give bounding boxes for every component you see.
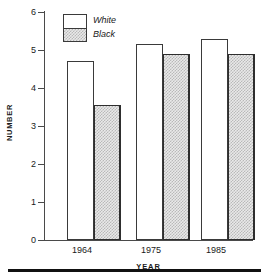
bar-black-1975	[163, 54, 190, 240]
plot-area	[45, 12, 252, 240]
bar-white-1964	[67, 61, 94, 240]
y-tick-0	[38, 240, 45, 241]
y-axis-title: NUMBER	[5, 88, 14, 158]
legend-swatch-white-icon	[63, 14, 87, 28]
legend-swatch-black-icon	[63, 28, 87, 42]
y-tick-2	[38, 164, 45, 165]
y-tick-label-0: 0	[16, 236, 36, 245]
bottom-divider-rule	[8, 269, 261, 272]
y-tick-4	[38, 88, 45, 89]
bar-black-1964	[94, 105, 121, 240]
x-group-label-1975: 1975	[131, 245, 171, 255]
legend-label-black: Black	[93, 29, 115, 40]
y-tick-label-4: 4	[16, 84, 36, 93]
y-tick-label-1: 1	[16, 198, 36, 207]
legend-label-white: White	[93, 15, 116, 26]
x-axis-line	[44, 240, 253, 241]
x-group-label-1964: 1964	[62, 245, 102, 255]
bar-white-1985	[201, 39, 228, 240]
y-tick-3	[38, 126, 45, 127]
bar-white-1975	[136, 44, 163, 240]
y-tick-6	[38, 12, 45, 13]
y-tick-label-2: 2	[16, 160, 36, 169]
y-tick-label-3: 3	[16, 122, 36, 131]
y-tick-5	[38, 50, 45, 51]
bar-black-1985	[228, 54, 255, 240]
y-tick-label-5: 5	[16, 46, 36, 55]
x-group-label-1985: 1985	[196, 245, 236, 255]
bar-chart-figure: 6 5 4 3 2 1 0 NUMBER 1964 1975 1985 YEAR…	[0, 0, 269, 278]
y-tick-1	[38, 202, 45, 203]
y-tick-label-6: 6	[16, 8, 36, 17]
